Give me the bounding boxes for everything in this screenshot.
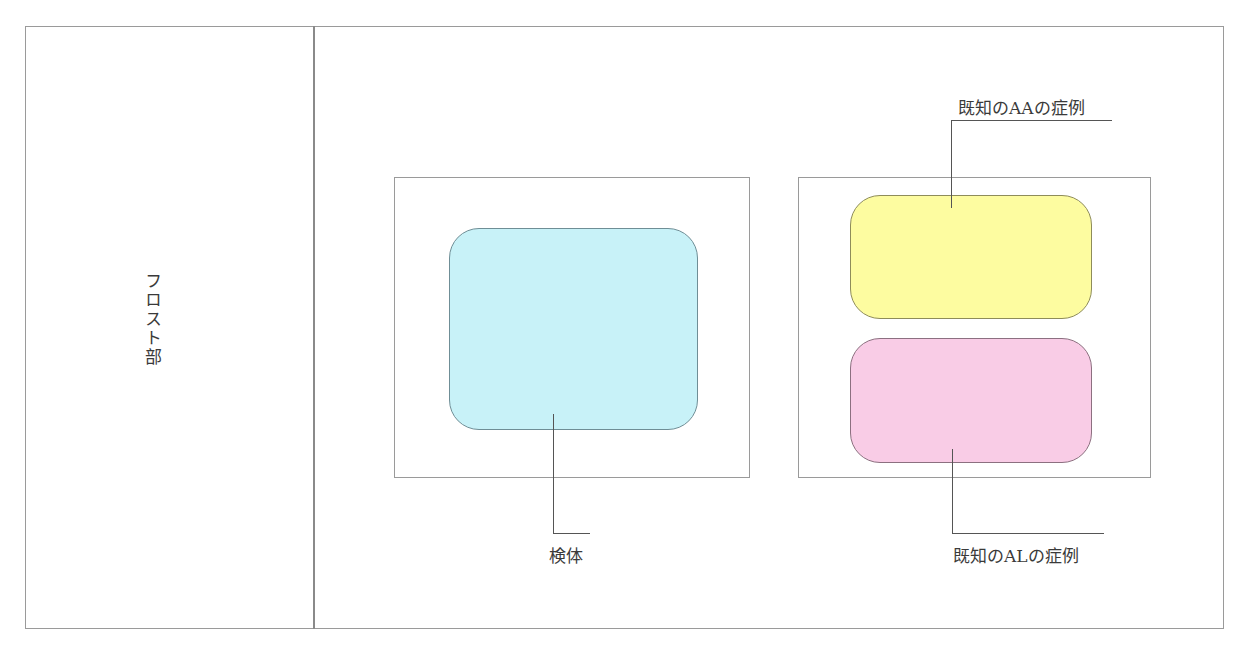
- known-al-label: 既知のALの症例: [953, 542, 1079, 567]
- specimen-leader-horizontal: [553, 533, 590, 534]
- aa-leader-vertical: [951, 120, 952, 208]
- specimen-shape: [449, 228, 698, 430]
- known-aa-shape: [850, 195, 1092, 319]
- aa-leader-horizontal: [951, 120, 1112, 121]
- known-aa-label: 既知のAAの症例: [958, 94, 1085, 119]
- al-leader-horizontal: [952, 533, 1104, 534]
- specimen-label: 検体: [549, 542, 583, 567]
- specimen-leader-vertical: [553, 414, 554, 534]
- frost-divider: [313, 26, 315, 629]
- frost-label: フロスト部: [140, 272, 165, 367]
- al-leader-vertical: [952, 449, 953, 533]
- known-al-shape: [850, 338, 1092, 463]
